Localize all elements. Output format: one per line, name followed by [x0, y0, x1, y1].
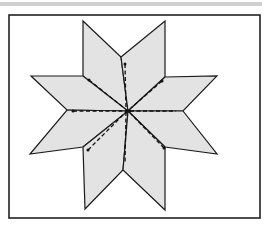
seam-lower-right-end-dot — [163, 147, 166, 150]
center-point — [126, 109, 129, 112]
seam-upper-left-end-dot — [88, 79, 91, 82]
seam-left-end-dot — [72, 110, 75, 113]
seam-lower-left-end-dot — [87, 149, 90, 152]
seam-up-end-dot — [124, 63, 127, 66]
star-quilt-diagram — [0, 0, 269, 225]
seam-upper-right-end-dot — [161, 80, 164, 83]
